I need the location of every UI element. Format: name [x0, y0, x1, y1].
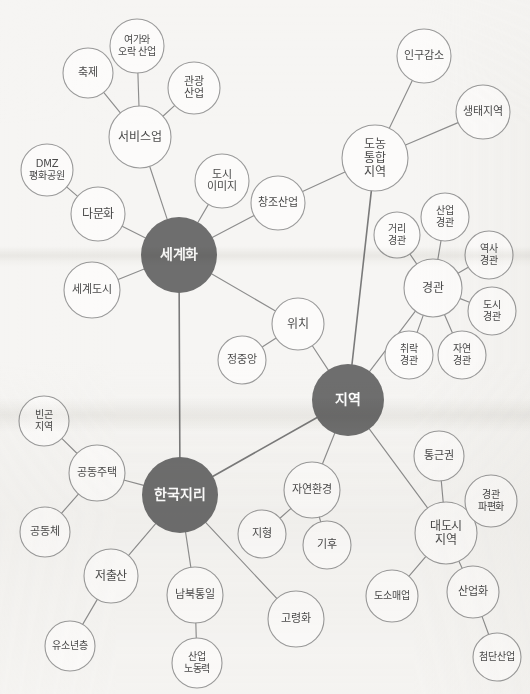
node-circle-gongdongjutaek[interactable]: [69, 445, 125, 501]
node-circle-wichi[interactable]: [272, 298, 324, 350]
node-dmz[interactable]: DMZ평화공원: [21, 144, 73, 196]
node-sanuphwa[interactable]: 산업화: [447, 566, 499, 618]
node-ingugamso[interactable]: 인구감소: [397, 29, 451, 83]
node-jiyeok[interactable]: 지역: [312, 364, 384, 436]
node-saengtae[interactable]: 생태지역: [456, 85, 510, 139]
node-circle-nambuk[interactable]: [167, 567, 223, 623]
node-circle-damunhwa[interactable]: [71, 187, 125, 241]
edge-yeogaorak-to-seobiseu: [138, 72, 139, 106]
node-circle-cheomdan[interactable]: [473, 633, 521, 681]
node-wichi[interactable]: 위치: [272, 298, 324, 350]
node-gihu[interactable]: 기후: [303, 521, 351, 569]
node-sanupgg[interactable]: 산업경관: [421, 193, 469, 241]
edge-geori-to-gyeonggwan: [410, 254, 417, 265]
edge-chwirak-to-gyeonggwan: [417, 315, 423, 333]
node-circle-sanupgg[interactable]: [421, 193, 469, 241]
node-jeongjungang[interactable]: 정중앙: [218, 336, 266, 384]
node-circle-jayeonhwan[interactable]: [284, 462, 340, 518]
edge-sanuphwa-to-daedosi: [459, 561, 463, 569]
node-circle-yeogaorak[interactable]: [110, 19, 164, 73]
node-jeochulsan[interactable]: 저출산: [84, 549, 138, 603]
node-segyedosi[interactable]: 세계도시: [64, 262, 120, 318]
edge-nambuk-to-hangukjiri: [186, 532, 191, 568]
node-chwirak[interactable]: 취락경관: [385, 331, 433, 379]
node-circle-segyehwa[interactable]: [141, 217, 217, 293]
node-sanupnodong[interactable]: 산업노동력: [172, 638, 222, 688]
edge-gwangwang-to-seobiseu: [163, 105, 176, 116]
edge-saengtae-to-donong: [405, 122, 459, 145]
node-gongdongche[interactable]: 공동체: [20, 507, 70, 557]
node-circle-gwangwang[interactable]: [168, 62, 220, 114]
node-yeoksa[interactable]: 역사경관: [465, 231, 513, 279]
node-circle-hangukjiri[interactable]: [142, 457, 218, 533]
node-dosigg[interactable]: 도시경관: [468, 287, 516, 335]
node-circle-geori[interactable]: [374, 212, 420, 258]
edge-dosiimage-to-segyehwa: [198, 204, 209, 223]
edge-damunhwa-to-segyehwa: [122, 226, 146, 238]
edge-jayeongg-to-gyeonggwan: [444, 314, 452, 333]
node-jihyeong[interactable]: 지형: [238, 510, 286, 558]
node-gyeonggwan[interactable]: 경관: [404, 259, 462, 317]
node-gwanpyeon[interactable]: 경관파편화: [465, 475, 517, 527]
node-gwangwang[interactable]: 관광산업: [168, 62, 220, 114]
node-yusonyeon[interactable]: 유소년층: [45, 621, 95, 671]
node-geori[interactable]: 거리경관: [374, 212, 420, 258]
edge-chukje-to-seobiseu: [103, 92, 120, 113]
node-circle-chwirak[interactable]: [385, 331, 433, 379]
node-circle-jihyeong[interactable]: [238, 510, 286, 558]
node-circle-goryeonghwa[interactable]: [268, 591, 324, 647]
node-yeogaorak[interactable]: 여가와오락 산업: [110, 19, 164, 73]
node-circle-ingugamso[interactable]: [397, 29, 451, 83]
node-circle-sanuphwa[interactable]: [447, 566, 499, 618]
edge-jiyeok-to-jayeonhwan: [322, 433, 335, 465]
node-jayeongg[interactable]: 자연경관: [438, 331, 486, 379]
node-bingon[interactable]: 빈곤지역: [19, 396, 69, 446]
node-circle-dosigg[interactable]: [468, 287, 516, 335]
node-circle-jeochulsan[interactable]: [84, 549, 138, 603]
node-circle-seobiseu[interactable]: [109, 106, 171, 168]
edge-wichi-to-jeongjungang: [262, 338, 277, 348]
node-circle-yeoksa[interactable]: [465, 231, 513, 279]
node-circle-gyeonggwan[interactable]: [404, 259, 462, 317]
node-circle-saengtae[interactable]: [456, 85, 510, 139]
mindmap-graph: 세계화지역한국지리도농통합지역서비스업경관대도시지역여가와오락 산업축제관광산업…: [0, 0, 530, 694]
node-donong[interactable]: 도농통합지역: [342, 125, 408, 191]
node-segyehwa[interactable]: 세계화: [141, 217, 217, 293]
node-circle-tonggeun[interactable]: [414, 431, 464, 481]
node-damunhwa[interactable]: 다문화: [71, 187, 125, 241]
node-gongdongjutaek[interactable]: 공동주택: [69, 445, 125, 501]
node-dosomae[interactable]: 도소매업: [366, 570, 418, 622]
node-jayeonhwan[interactable]: 자연환경: [284, 462, 340, 518]
node-circle-gihu[interactable]: [303, 521, 351, 569]
node-nambuk[interactable]: 남북통일: [167, 567, 223, 623]
edge-dmz-to-damunhwa: [66, 187, 78, 197]
node-circle-gwanpyeon[interactable]: [465, 475, 517, 527]
node-chukje[interactable]: 축제: [63, 48, 113, 98]
node-circle-yusonyeon[interactable]: [45, 621, 95, 671]
nodes-layer: 세계화지역한국지리도농통합지역서비스업경관대도시지역여가와오락 산업축제관광산업…: [19, 19, 521, 688]
node-hangukjiri[interactable]: 한국지리: [142, 457, 218, 533]
node-circle-dosomae[interactable]: [366, 570, 418, 622]
node-circle-segyedosi[interactable]: [64, 262, 120, 318]
edge-gongdongjutaek-to-hangukjiri: [124, 480, 144, 485]
edge-jeochulsan-to-hangukjiri: [128, 524, 155, 556]
node-goryeonghwa[interactable]: 고령화: [268, 591, 324, 647]
node-circle-jeongjungang[interactable]: [218, 336, 266, 384]
node-circle-gongdongche[interactable]: [20, 507, 70, 557]
node-circle-jiyeok[interactable]: [312, 364, 384, 436]
node-dosiimage[interactable]: 도시이미지: [195, 154, 249, 208]
node-seobiseu[interactable]: 서비스업: [109, 106, 171, 168]
node-circle-donong[interactable]: [342, 125, 408, 191]
node-circle-dosiimage[interactable]: [195, 154, 249, 208]
node-circle-changjo[interactable]: [251, 176, 305, 230]
node-circle-sanupnodong[interactable]: [172, 638, 222, 688]
node-tonggeun[interactable]: 통근권: [414, 431, 464, 481]
node-circle-dmz[interactable]: [21, 144, 73, 196]
node-circle-jayeongg[interactable]: [438, 331, 486, 379]
node-circle-chukje[interactable]: [63, 48, 113, 98]
edge-changjo-to-donong: [302, 172, 345, 192]
node-circle-bingon[interactable]: [19, 396, 69, 446]
node-changjo[interactable]: 창조산업: [251, 176, 305, 230]
edge-bingon-to-gongdongjutaek: [61, 438, 77, 454]
node-cheomdan[interactable]: 첨단산업: [473, 633, 521, 681]
